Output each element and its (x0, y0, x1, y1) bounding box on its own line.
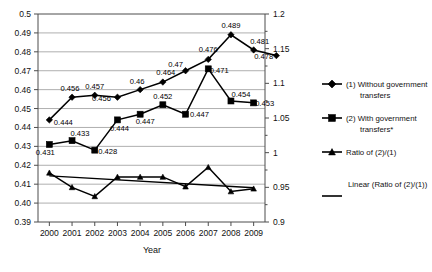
right-tick-label: 0.95 (273, 182, 290, 192)
left-tick-label: 0.46 (14, 85, 31, 95)
data-point-label: 0.447 (136, 117, 155, 126)
data-point-label: 0.447 (190, 110, 209, 119)
x-tick-label: 2008 (221, 228, 240, 238)
x-tick-label: 2000 (40, 228, 59, 238)
data-point-label: 0.453 (255, 99, 274, 108)
line-chart-figure: 0.390.400.410.420.430.440.450.460.470.48… (0, 0, 432, 272)
square-marker-icon (46, 141, 52, 147)
legend-item-label: Linear (Ratio of (2)/(1)) (348, 180, 428, 189)
data-point-label: 0.476 (199, 45, 218, 54)
left-tick-label: 0.43 (14, 141, 31, 151)
legend-item-label: (1) Without government (346, 80, 428, 89)
left-tick-label: 0.41 (14, 179, 31, 189)
data-point-label: 0.457 (85, 82, 104, 91)
right-tick-label: 1.1 (273, 78, 285, 88)
data-point-label: 0.431 (36, 148, 55, 157)
right-tick-label: 1.05 (273, 113, 290, 123)
legend-item-label: Ratio of (2)/(1) (346, 148, 397, 157)
square-marker-icon (69, 138, 75, 144)
data-point-label: 0.454 (231, 90, 250, 99)
x-tick-label: 2002 (85, 228, 104, 238)
x-tick-label: 2009 (244, 228, 263, 238)
x-tick-label: 2004 (131, 228, 150, 238)
square-marker-icon (92, 147, 98, 153)
left-tick-label: 0.40 (14, 198, 31, 208)
data-point-label: 0.481 (250, 37, 269, 46)
left-tick-label: 0.39 (14, 217, 31, 227)
data-point-label: 0.456 (92, 94, 111, 103)
left-tick-label: 0.48 (14, 47, 31, 57)
data-point-label: 0.433 (71, 129, 90, 138)
square-marker-icon (183, 111, 189, 117)
left-tick-label: 0.44 (14, 122, 31, 132)
left-tick-label: 0.5 (19, 9, 31, 19)
data-point-label: 0.428 (98, 147, 117, 156)
legend-item-label-line2: transfers (360, 91, 390, 100)
left-tick-label: 0.45 (14, 104, 31, 114)
square-marker-icon (114, 117, 120, 123)
legend-item-label-line2: transfers* (360, 125, 393, 134)
square-marker-icon (160, 102, 166, 108)
chart-container: 0.390.400.410.420.430.440.450.460.470.48… (0, 0, 432, 272)
x-tick-label: 2001 (63, 228, 82, 238)
data-point-label: 0.464 (156, 68, 175, 77)
right-tick-label: 1 (273, 148, 278, 158)
square-marker-icon (329, 115, 336, 122)
data-point-label: 0.46 (130, 77, 145, 86)
legend-item-label: (2) With government (346, 114, 417, 123)
data-point-label: 0.456 (61, 84, 80, 93)
data-point-label: 0.478 (254, 52, 273, 61)
x-axis-title: Year (143, 245, 161, 255)
right-tick-label: 0.9 (273, 217, 285, 227)
left-tick-label: 0.49 (14, 28, 31, 38)
right-tick-label: 1.15 (273, 44, 290, 54)
x-tick-label: 2003 (108, 228, 127, 238)
data-point-label: 0.47 (168, 60, 183, 69)
x-tick-label: 2005 (153, 228, 172, 238)
data-point-label: 0.444 (110, 124, 129, 133)
data-point-label: 0.444 (54, 118, 73, 127)
data-point-label: 0.489 (221, 21, 240, 30)
data-point-label: 0.471 (210, 66, 229, 75)
x-tick-label: 2007 (199, 228, 218, 238)
right-tick-label: 1.2 (273, 9, 285, 19)
data-point-label: 0.452 (153, 92, 172, 101)
left-tick-label: 0.47 (14, 66, 31, 76)
x-tick-label: 2006 (176, 228, 195, 238)
left-tick-label: 0.42 (14, 160, 31, 170)
